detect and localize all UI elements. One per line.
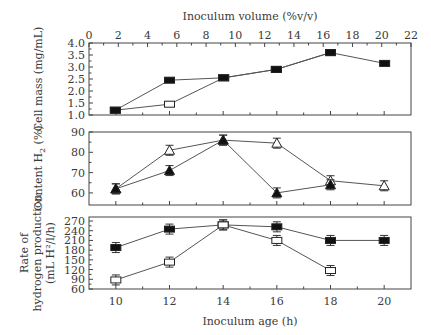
series-filled-square (111, 220, 389, 253)
series-line (116, 140, 384, 189)
y-axis-label-cell-mass: Cell mass (mg/mL) (32, 27, 45, 132)
series-line (116, 225, 384, 248)
open-square-marker (326, 268, 336, 274)
series-filled-triangle (111, 135, 336, 198)
open-square-marker (218, 222, 228, 228)
top-x-tick-label: 10 (228, 29, 242, 42)
y-tick-label: 3.5 (68, 49, 86, 62)
plot-frame (89, 132, 411, 205)
y-tick-label: 3.0 (68, 61, 86, 74)
filled-triangle-marker (165, 166, 175, 175)
y-tick-label: 2.0 (68, 85, 86, 98)
y-tick-label: 4.0 (68, 37, 86, 50)
filled-triangle-marker (111, 184, 121, 193)
x-tick-label: 18 (324, 295, 338, 308)
x-tick-label: 14 (216, 295, 230, 308)
filled-square-marker (110, 107, 120, 113)
series-line (116, 225, 331, 280)
y-tick-label: 60 (71, 187, 85, 200)
panel-content-h2: 60708090 (71, 126, 411, 205)
filled-square-marker (271, 66, 281, 72)
filled-square-marker (272, 224, 282, 230)
series-filled-square (110, 50, 389, 114)
axes: 1.01.52.02.53.03.54.00246810121416182022… (64, 29, 418, 308)
y-tick-label: 90 (71, 126, 85, 139)
y-tick-label: 270 (64, 215, 85, 228)
y-tick-label: 1.0 (68, 109, 86, 122)
filled-square-marker (326, 237, 336, 243)
y-tick-label: 1.5 (68, 97, 86, 110)
y-axis-label-rate-line3: (mL H²/l/h) (44, 222, 57, 284)
series-line (116, 140, 331, 193)
open-square-marker (272, 237, 282, 243)
top-x-tick-label: 20 (375, 29, 389, 42)
y-axis-label-rate-line1: Rate of (18, 232, 31, 273)
top-x-tick-label: 16 (316, 29, 330, 42)
top-x-tick-label: 2 (115, 29, 122, 42)
filled-square-marker (219, 75, 229, 81)
x-tick-label: 12 (163, 295, 177, 308)
top-x-tick-label: 12 (258, 29, 272, 42)
plot-frame (89, 43, 411, 115)
filled-square-marker (165, 226, 175, 232)
top-x-tick-label: 0 (86, 29, 93, 42)
top-x-tick-label: 6 (173, 29, 180, 42)
open-square-marker (165, 101, 175, 107)
y-axis-label-rate-line2: hydrogen production (31, 194, 44, 311)
top-x-tick-label: 8 (203, 29, 210, 42)
series-open-triangle (111, 135, 389, 194)
series-open-square (110, 50, 335, 114)
filled-triangle-marker (218, 135, 228, 144)
top-x-tick-label: 18 (345, 29, 359, 42)
open-square-marker (111, 277, 121, 283)
x-tick-label: 10 (109, 295, 123, 308)
filled-square-marker (326, 50, 336, 56)
x-tick-label: 16 (270, 295, 284, 308)
y-tick-label: 80 (71, 146, 85, 159)
x-tick-label: 20 (377, 295, 391, 308)
top-x-tick-label: 14 (287, 29, 301, 42)
bottom-x-axis-label: Inoculum age (h) (202, 315, 297, 328)
y-tick-label: 70 (71, 167, 85, 180)
top-x-tick-label: 22 (404, 29, 418, 42)
open-square-marker (165, 259, 175, 265)
y-tick-label: 2.5 (68, 73, 86, 86)
top-x-axis-label: Inoculum volume (%v/v) (183, 10, 318, 23)
series-open-square (111, 220, 336, 285)
filled-square-marker (111, 245, 121, 251)
chart: 1.01.52.02.53.03.54.00246810121416182022… (0, 0, 431, 335)
series-layer (110, 50, 389, 285)
filled-square-marker (165, 77, 175, 83)
series-line (115, 53, 330, 111)
filled-square-marker (380, 60, 390, 66)
filled-square-marker (379, 237, 389, 243)
plot-frame (89, 217, 411, 289)
series-line (115, 53, 384, 111)
top-x-tick-label: 4 (144, 29, 151, 42)
